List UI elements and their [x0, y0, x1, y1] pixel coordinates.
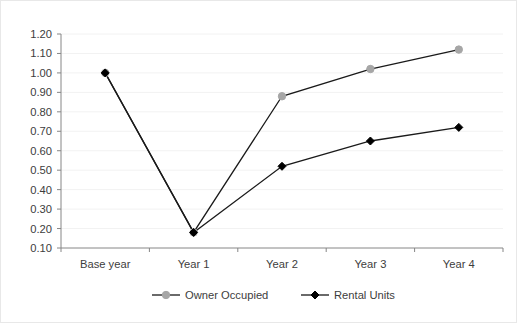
y-axis-tick-label: 0.80 [30, 106, 52, 118]
legend-label: Rental Units [334, 289, 395, 301]
y-axis-tick-label: 1.10 [30, 47, 52, 59]
y-axis-ticks-group [57, 34, 61, 248]
legend-label: Owner Occupied [185, 289, 268, 301]
legend-marker [311, 291, 319, 299]
y-axis-labels-group: 0.100.200.300.400.500.600.700.800.901.00… [30, 28, 52, 254]
x-axis-group [61, 248, 503, 252]
x-axis-tick-label: Year 1 [178, 258, 210, 270]
y-axis-tick-label: 0.40 [30, 184, 52, 196]
data-series-group [101, 46, 463, 237]
y-axis-tick-label: 0.10 [30, 242, 52, 254]
y-axis-tick-label: 0.50 [30, 164, 52, 176]
data-point-marker [367, 65, 374, 72]
data-point-marker [278, 93, 285, 100]
y-axis-tick-label: 0.70 [30, 125, 52, 137]
x-axis-tick-label: Year 3 [354, 258, 386, 270]
y-axis-tick-label: 1.00 [30, 67, 52, 79]
legend-marker [162, 291, 169, 298]
y-axis-tick-label: 0.90 [30, 86, 52, 98]
y-axis-tick-label: 0.20 [30, 223, 52, 235]
chart-canvas: 0.100.200.300.400.500.600.700.800.901.00… [0, 0, 519, 325]
y-axis-tick-label: 0.60 [30, 145, 52, 157]
x-axis-tick-label: Year 2 [266, 258, 298, 270]
data-point-marker [455, 46, 462, 53]
x-axis-labels-group: Base yearYear 1Year 2Year 3Year 4 [80, 258, 475, 270]
chart-legend: Owner OccupiedRental Units [152, 289, 395, 301]
y-axis-tick-label: 1.20 [30, 28, 52, 40]
y-axis-tick-label: 0.30 [30, 203, 52, 215]
series-line [105, 50, 459, 233]
x-axis-tick-label: Year 4 [443, 258, 475, 270]
x-axis-tick-label: Base year [80, 258, 131, 270]
line-chart: 0.100.200.300.400.500.600.700.800.901.00… [0, 0, 519, 325]
data-point-marker [455, 123, 463, 131]
data-point-marker [366, 137, 374, 145]
